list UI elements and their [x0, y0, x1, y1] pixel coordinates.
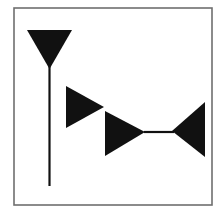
figure-canvas: [0, 0, 223, 213]
figure-svg: [0, 0, 223, 213]
